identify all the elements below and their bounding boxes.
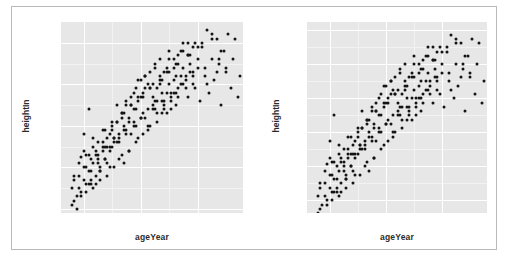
scatter-point bbox=[106, 174, 109, 177]
scatter-point bbox=[191, 70, 194, 73]
scatter-point bbox=[370, 139, 373, 142]
scatter-point bbox=[412, 63, 415, 66]
scatter-point bbox=[141, 133, 144, 136]
scatter-point bbox=[351, 169, 354, 172]
x-axis-title-right: ageYear bbox=[307, 232, 487, 242]
gridline-minor-vertical bbox=[414, 22, 415, 213]
scatter-point bbox=[94, 174, 97, 177]
scatter-point bbox=[344, 178, 347, 181]
scatter-point bbox=[469, 76, 472, 79]
scatter-point bbox=[144, 116, 147, 119]
plot-area-left: 4'2"4'7"5'0"5'5"5'10"121416 bbox=[61, 22, 243, 213]
scatter-point bbox=[203, 66, 206, 69]
scatter-point bbox=[220, 50, 223, 53]
scatter-point bbox=[473, 93, 476, 96]
scatter-point bbox=[87, 170, 90, 173]
gridline-minor-vertical bbox=[112, 22, 113, 213]
scatter-point bbox=[410, 118, 413, 121]
scatter-point bbox=[153, 99, 156, 102]
scatter-point bbox=[130, 133, 133, 136]
scatter-point bbox=[396, 110, 399, 113]
scatter-point bbox=[452, 97, 455, 100]
scatter-point bbox=[333, 161, 336, 164]
scatter-point bbox=[130, 95, 133, 98]
scatter-point bbox=[354, 139, 357, 142]
scatter-point bbox=[182, 41, 185, 44]
scatter-point bbox=[80, 195, 83, 198]
scatter-point bbox=[175, 74, 178, 77]
scatter-point bbox=[146, 128, 149, 131]
scatter-point bbox=[365, 118, 368, 121]
gridline-major-horizontal bbox=[307, 166, 487, 167]
scatter-point bbox=[227, 33, 230, 36]
scatter-point bbox=[403, 88, 406, 91]
scatter-point bbox=[96, 141, 99, 144]
scatter-point bbox=[330, 173, 333, 176]
scatter-point bbox=[361, 127, 364, 130]
scatter-point bbox=[70, 187, 73, 190]
scatter-point bbox=[172, 66, 175, 69]
scatter-point bbox=[405, 118, 408, 121]
scatter-point bbox=[384, 122, 387, 125]
scatter-point bbox=[441, 63, 444, 66]
scatter-point bbox=[113, 137, 116, 140]
scatter-point bbox=[405, 105, 408, 108]
scatter-point bbox=[168, 83, 171, 86]
scatter-point bbox=[191, 83, 194, 86]
scatter-point bbox=[151, 95, 154, 98]
scatter-point bbox=[448, 80, 451, 83]
scatter-point bbox=[361, 110, 364, 113]
scatter-point bbox=[356, 152, 359, 155]
scatter-point bbox=[215, 37, 218, 40]
panel-wrapper: heightIn 4'2"4'7"5'0"5'5"5'10"121416 age… bbox=[12, 7, 496, 249]
scatter-point bbox=[222, 50, 225, 53]
scatter-point bbox=[379, 131, 382, 134]
scatter-point bbox=[337, 169, 340, 172]
scatter-point bbox=[328, 139, 331, 142]
scatter-point bbox=[217, 58, 220, 61]
scatter-point bbox=[125, 99, 128, 102]
gridline-minor-vertical bbox=[358, 22, 359, 213]
scatter-point bbox=[205, 29, 208, 32]
scatter-point bbox=[116, 120, 119, 123]
scatter-point bbox=[387, 139, 390, 142]
scatter-point bbox=[370, 110, 373, 113]
scatter-point bbox=[77, 174, 80, 177]
scatter-point bbox=[457, 84, 460, 87]
scatter-point bbox=[210, 58, 213, 61]
scatter-point bbox=[403, 80, 406, 83]
scatter-point bbox=[141, 112, 144, 115]
gridline-minor-horizontal bbox=[61, 147, 243, 148]
scatter-point bbox=[132, 108, 135, 111]
scatter-point bbox=[316, 195, 319, 198]
scatter-point bbox=[144, 87, 147, 90]
x-axis-title-left: ageYear bbox=[61, 232, 243, 242]
scatter-point bbox=[398, 105, 401, 108]
gridline-major-horizontal bbox=[307, 200, 487, 201]
scatter-point bbox=[379, 93, 382, 96]
scatter-point bbox=[422, 67, 425, 70]
scatter-point bbox=[363, 139, 366, 142]
scatter-point bbox=[335, 165, 338, 168]
scatter-point bbox=[212, 79, 215, 82]
scatter-point bbox=[368, 131, 371, 134]
scatter-point bbox=[401, 127, 404, 130]
scatter-point bbox=[431, 59, 434, 62]
scatter-point bbox=[156, 120, 159, 123]
scatter-point bbox=[172, 91, 175, 94]
scatter-point bbox=[436, 80, 439, 83]
scatter-point bbox=[431, 101, 434, 104]
scatter-point bbox=[156, 87, 159, 90]
scatter-point bbox=[120, 116, 123, 119]
scatter-point bbox=[443, 105, 446, 108]
scatter-point bbox=[85, 191, 88, 194]
scatter-point bbox=[234, 37, 237, 40]
scatter-point bbox=[384, 101, 387, 104]
scatter-point bbox=[337, 152, 340, 155]
scatter-point bbox=[89, 178, 92, 181]
scatter-point bbox=[354, 173, 357, 176]
scatter-point bbox=[127, 120, 130, 123]
scatter-point bbox=[424, 54, 427, 57]
scatter-point bbox=[342, 165, 345, 168]
scatter-point bbox=[417, 71, 420, 74]
